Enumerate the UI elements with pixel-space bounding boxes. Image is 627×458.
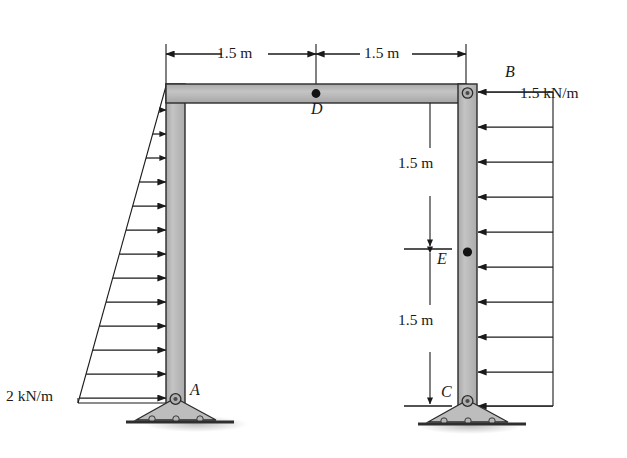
dimension-top-right-span: 1.5 m [364,44,399,62]
load-label-left: 2 kN/m [6,387,53,405]
left-distributed-load [78,86,166,403]
member-right-column [458,84,477,408]
joint-label-d: D [311,100,323,118]
right-distributed-load [478,92,553,406]
joint-label-a: A [190,381,200,399]
member-left-column [166,84,185,406]
joint-label-c: C [441,383,452,401]
dimension-right-upper: 1.5 m [398,154,433,172]
load-label-right: 1.5 kN/m [520,84,579,102]
dimension-right-lower: 1.5 m [398,311,433,329]
joint-label-b: B [505,63,515,81]
hinge-e [463,247,472,256]
hinge-d [312,89,321,98]
figure-canvas: 1.5 m 1.5 m 1.5 m 1.5 m B D E A C 2 kN/m… [0,0,627,458]
joint-label-e: E [437,250,447,268]
right-vertical-dimensions [404,89,455,406]
frame-diagram-svg [0,0,627,458]
support-c [418,396,526,425]
hinge-b [462,88,472,98]
dimension-top-left-span: 1.5 m [217,44,252,62]
